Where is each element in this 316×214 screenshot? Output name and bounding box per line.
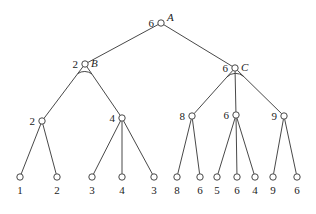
leaf-node-9	[252, 174, 258, 180]
edge-B2-leaf-4	[124, 121, 153, 174]
leaf-node-10	[270, 174, 276, 180]
edge-B1-leaf-1	[43, 124, 56, 174]
edge-C2-leaf-9	[237, 118, 254, 174]
leaf-value-6: 6	[197, 184, 203, 196]
leaf-node-8	[234, 174, 240, 180]
node-value-C: 6	[223, 62, 229, 74]
leaf-value-1: 2	[54, 184, 60, 196]
node-name-B: B	[91, 57, 98, 69]
edge-A-C	[164, 25, 233, 67]
leaf-value-3: 4	[119, 184, 125, 196]
node-name-C: C	[241, 61, 249, 73]
leaf-node-6	[197, 174, 203, 180]
node-C	[232, 65, 238, 71]
tree-edges	[21, 25, 296, 175]
edge-B1-leaf-0	[21, 124, 41, 174]
leaf-value-9: 4	[252, 184, 258, 196]
node-value-B1: 2	[30, 115, 36, 127]
leaf-node-1	[54, 174, 60, 180]
leaf-node-11	[294, 174, 300, 180]
leaf-value-7: 5	[214, 184, 220, 196]
leaf-node-5	[174, 174, 180, 180]
node-name-A: A	[166, 11, 174, 23]
node-B1	[39, 118, 45, 124]
leaf-value-5: 8	[174, 184, 180, 196]
node-value-B: 2	[73, 58, 79, 70]
node-labels: 6A2B6C24869123438656496	[17, 11, 300, 196]
leaf-value-11: 6	[294, 184, 300, 196]
game-tree-diagram: 6A2B6C24869123438656496	[0, 0, 316, 214]
node-C2	[233, 112, 239, 118]
node-A	[158, 20, 164, 26]
edge-C1-leaf-5	[178, 119, 191, 174]
node-C1	[189, 113, 195, 119]
leaf-node-0	[17, 174, 23, 180]
leaf-node-7	[214, 174, 220, 180]
leaf-value-10: 9	[270, 184, 276, 196]
tree-nodes	[17, 20, 300, 180]
edge-C3-leaf-11	[285, 119, 297, 174]
node-value-C3: 9	[272, 110, 278, 122]
edge-B-B2	[87, 67, 120, 116]
node-value-C2: 6	[224, 109, 230, 121]
edge-C3-leaf-10	[274, 119, 284, 174]
leaf-value-4: 3	[151, 184, 157, 196]
leaf-value-0: 1	[17, 184, 23, 196]
leaf-node-2	[89, 174, 95, 180]
edge-C-C3	[237, 70, 281, 114]
leaf-node-4	[151, 174, 157, 180]
leaf-value-8: 6	[234, 184, 240, 196]
leaf-value-2: 3	[89, 184, 95, 196]
node-B2	[119, 115, 125, 121]
edge-C-C2	[235, 71, 236, 112]
node-value-C1: 8	[180, 110, 186, 122]
edge-C1-leaf-6	[192, 119, 199, 174]
edge-B-B1	[44, 67, 83, 119]
node-value-B2: 4	[110, 112, 116, 124]
edge-A-B	[88, 25, 158, 63]
edge-C2-leaf-7	[218, 118, 235, 174]
and-arc-B	[78, 71, 92, 73]
edge-C2-leaf-8	[236, 118, 237, 174]
and-arcs	[78, 71, 244, 76]
leaf-node-3	[119, 174, 125, 180]
edge-B2-leaf-2	[93, 121, 120, 174]
node-B	[82, 61, 88, 67]
node-value-A: 6	[149, 17, 155, 29]
node-C3	[281, 113, 287, 119]
